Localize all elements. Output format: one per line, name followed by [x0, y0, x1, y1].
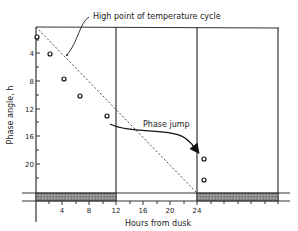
- svg-text:20: 20: [25, 161, 34, 169]
- svg-text:24: 24: [193, 207, 202, 215]
- data-point: [48, 52, 52, 56]
- svg-text:4: 4: [30, 50, 35, 58]
- x-ticks: [49, 201, 278, 205]
- data-points: [35, 35, 206, 182]
- x-axis-label: Hours from dusk: [125, 219, 191, 228]
- svg-text:8: 8: [87, 207, 91, 215]
- temp-annotation-leader: [67, 17, 89, 55]
- data-point: [105, 114, 109, 118]
- phase-chart: 4 8 12 16 20 24 4 8 12 16 20 Hours from …: [0, 0, 298, 231]
- svg-text:16: 16: [139, 207, 148, 215]
- data-point: [35, 35, 39, 39]
- y-axis-label: Phase angle, h: [6, 86, 15, 145]
- data-point: [202, 157, 206, 161]
- temp-annotation-dot: [66, 54, 68, 56]
- dark-band-0-12: [36, 193, 116, 201]
- phase-jump-label: Phase jump: [143, 120, 190, 129]
- y-tick-labels: 4 8 12 16 20: [25, 50, 34, 169]
- data-point: [62, 77, 66, 81]
- svg-text:12: 12: [112, 207, 121, 215]
- svg-text:20: 20: [166, 207, 175, 215]
- x-tick-labels: 4 8 12 16 20 24: [60, 207, 202, 215]
- svg-text:16: 16: [25, 133, 34, 141]
- svg-text:8: 8: [30, 78, 34, 86]
- data-point: [202, 178, 206, 182]
- temp-annotation-label: High point of temperature cycle: [93, 12, 221, 21]
- svg-text:4: 4: [60, 207, 65, 215]
- data-point: [78, 94, 82, 98]
- svg-text:12: 12: [25, 106, 34, 114]
- dark-band-24-36: [197, 193, 278, 201]
